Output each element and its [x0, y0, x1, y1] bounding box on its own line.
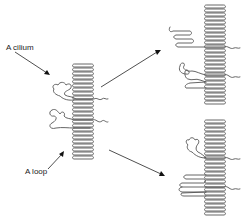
- cilium-arrowhead-icon: [44, 70, 50, 75]
- right-bottom-helix-column: [205, 120, 226, 215]
- right-bottom-folded-loop: [179, 175, 240, 196]
- cilium-pointer-arrow: [15, 52, 47, 73]
- right-top-helix-column: [205, 5, 226, 104]
- left-helix-column: [73, 64, 94, 159]
- cilium-label: A cilium: [6, 44, 34, 52]
- loop-label: A loop: [25, 168, 47, 176]
- polymer-cilium-loop-diagram: [0, 0, 250, 223]
- loop-pointer-arrow: [48, 154, 62, 169]
- transition-arrow-bottom: [109, 150, 161, 174]
- transition-arrow-top: [101, 52, 157, 87]
